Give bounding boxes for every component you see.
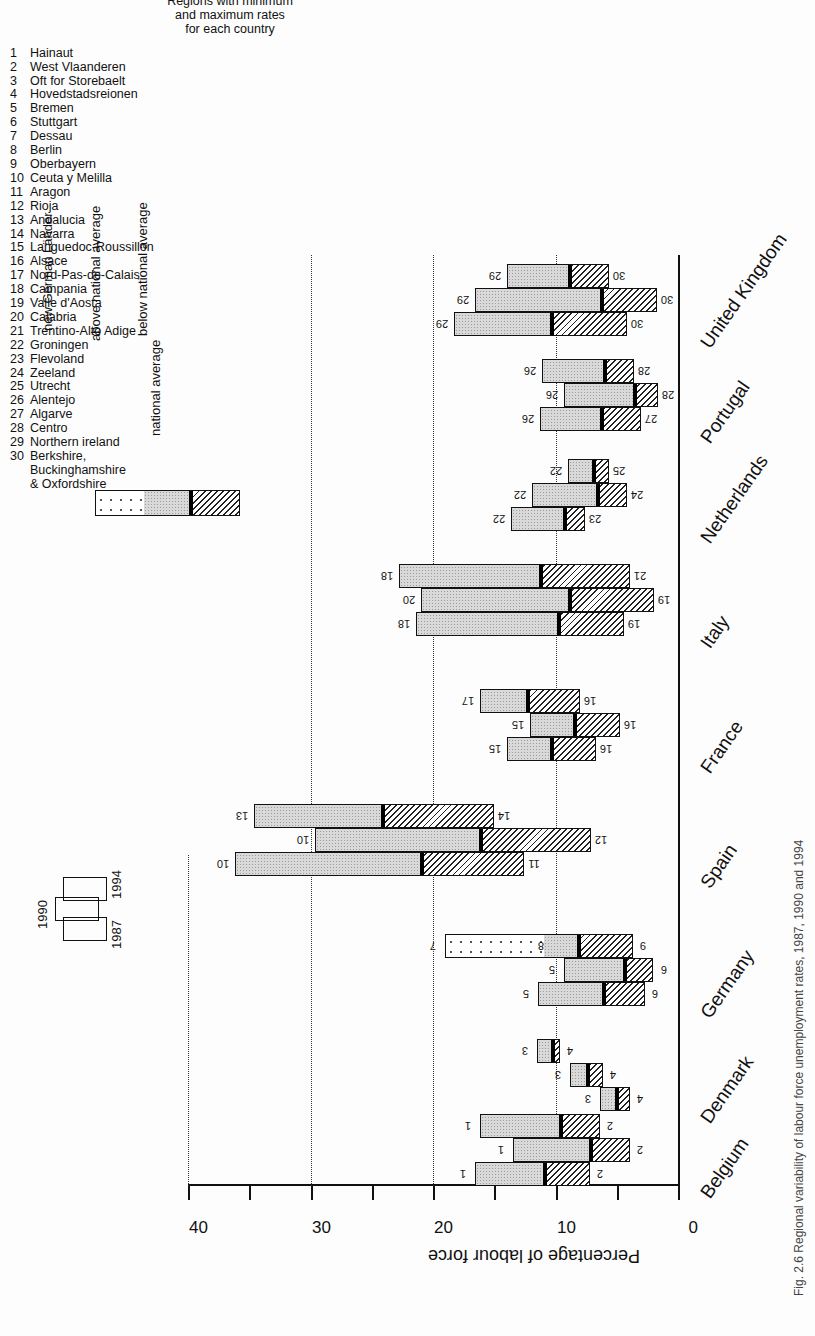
country-label: Italy bbox=[696, 611, 734, 652]
min-region-label: 6 bbox=[652, 964, 676, 976]
region-item: 23Flevoland bbox=[10, 353, 450, 367]
max-region-label: 3 bbox=[576, 1093, 600, 1105]
region-number: 6 bbox=[10, 116, 30, 130]
regions-legend: Regions with minimumand maximum ratesfor… bbox=[10, 0, 450, 492]
bar-belgium-1994 bbox=[480, 1114, 600, 1138]
region-name: Buckinghamshire bbox=[30, 463, 126, 477]
region-number: 1 bbox=[10, 47, 30, 61]
region-item: & Oxfordshire bbox=[10, 478, 450, 492]
national-average-marker bbox=[550, 738, 554, 760]
national-average-marker bbox=[550, 313, 554, 335]
national-average-marker bbox=[577, 935, 581, 957]
min-region-label: 12 bbox=[589, 834, 613, 846]
bar-spain-1994 bbox=[254, 804, 494, 828]
regions-title: Regions with minimumand maximum ratesfor… bbox=[10, 0, 450, 37]
region-item: Buckinghamshire bbox=[10, 464, 450, 478]
country-label: Netherlands bbox=[696, 451, 773, 548]
region-name: Dessau bbox=[30, 129, 72, 143]
year-key: 1987 1990 1994 bbox=[25, 841, 125, 941]
region-item: 16Alsace bbox=[10, 255, 450, 269]
y-tick bbox=[433, 1186, 435, 1200]
region-name: Aragon bbox=[30, 185, 70, 199]
regions-title-line: for each country bbox=[10, 23, 450, 37]
segment-below-average bbox=[545, 1163, 589, 1185]
region-name: West Vlaanderen bbox=[30, 60, 126, 74]
segment-above-average bbox=[316, 829, 480, 851]
max-region-label: 15 bbox=[506, 719, 530, 731]
max-region-label: 3 bbox=[546, 1069, 570, 1081]
min-region-label: 16 bbox=[578, 695, 602, 707]
region-name: Calabria bbox=[30, 310, 77, 324]
segment-above-average bbox=[508, 265, 570, 287]
bar-spain-1987 bbox=[235, 852, 524, 876]
max-region-label: 26 bbox=[540, 389, 564, 401]
bar-portugal-1987 bbox=[540, 407, 642, 431]
max-region-label: 26 bbox=[518, 365, 542, 377]
max-region-label: 17 bbox=[456, 695, 480, 707]
region-item: 30Berkshire, bbox=[10, 450, 450, 464]
min-region-label: 30 bbox=[625, 318, 649, 330]
national-average-marker bbox=[573, 714, 577, 736]
min-region-label: 25 bbox=[607, 465, 631, 477]
country-label: Denmark bbox=[696, 1052, 758, 1128]
region-item: 27Algarve bbox=[10, 408, 450, 422]
segment-below-average bbox=[635, 384, 659, 406]
segment-below-average bbox=[570, 589, 654, 611]
segment-below-average bbox=[591, 1139, 630, 1161]
max-region-label: 22 bbox=[487, 513, 511, 525]
region-number: 23 bbox=[10, 353, 30, 367]
region-name: Rioja bbox=[30, 199, 59, 213]
segment-above-average bbox=[455, 313, 552, 335]
segment-above-average bbox=[481, 690, 529, 712]
region-item: 8Berlin bbox=[10, 144, 450, 158]
region-name: Andalucia bbox=[30, 213, 85, 227]
segment-below-average bbox=[552, 738, 596, 760]
min-region-label: 19 bbox=[622, 618, 646, 630]
min-region-label: 21 bbox=[628, 570, 652, 582]
max-region-label: 18 bbox=[375, 570, 399, 582]
national-average-marker bbox=[596, 484, 600, 506]
gridline-40 bbox=[188, 855, 189, 1186]
min-region-label: 4 bbox=[558, 1045, 582, 1057]
segment-below-average bbox=[422, 853, 524, 875]
year-key-1987: 1987 bbox=[109, 920, 124, 949]
national-average-marker bbox=[592, 460, 596, 482]
segment-below-average bbox=[561, 1115, 599, 1137]
segment-below-average bbox=[602, 408, 641, 430]
region-number: 13 bbox=[10, 214, 30, 228]
y-tick-label: 30 bbox=[291, 1218, 331, 1238]
max-region-label: 5 bbox=[540, 964, 564, 976]
min-region-label: 11 bbox=[522, 858, 546, 870]
national-average-marker bbox=[526, 690, 530, 712]
region-number: 4 bbox=[10, 88, 30, 102]
region-item: 5Bremen bbox=[10, 102, 450, 116]
national-average-marker bbox=[479, 829, 483, 851]
region-name: Oft for Storebaelt bbox=[30, 74, 125, 88]
region-number: 24 bbox=[10, 367, 30, 381]
bar-germany-1987 bbox=[538, 982, 645, 1006]
max-region-label: 15 bbox=[483, 743, 507, 755]
national-average-marker bbox=[633, 384, 637, 406]
region-name: Berlin bbox=[30, 143, 62, 157]
min-region-label: 23 bbox=[583, 513, 607, 525]
western-max-region-label: 8 bbox=[529, 940, 553, 952]
bar-portugal-1990 bbox=[564, 383, 658, 407]
region-item: 26Alentejo bbox=[10, 394, 450, 408]
region-item: 11Aragon bbox=[10, 186, 450, 200]
national-average-marker bbox=[420, 853, 424, 875]
min-region-label: 2 bbox=[588, 1168, 612, 1180]
max-region-label: 22 bbox=[544, 465, 568, 477]
y-tick bbox=[556, 1186, 558, 1200]
region-name: Nord-Pas-de-Calais bbox=[30, 268, 140, 282]
max-region-label: 1 bbox=[456, 1120, 480, 1132]
y-tick-label: 0 bbox=[658, 1218, 698, 1238]
legend-swatch bbox=[95, 490, 240, 516]
segment-below-average bbox=[528, 690, 580, 712]
region-item: 22Groningen bbox=[10, 339, 450, 353]
year-key-1994: 1994 bbox=[109, 870, 124, 899]
region-number: 15 bbox=[10, 241, 30, 255]
region-number: 30 bbox=[10, 450, 30, 464]
segment-above-average bbox=[255, 805, 382, 827]
year-key-box-1994 bbox=[63, 877, 107, 901]
national-average-marker bbox=[559, 1115, 563, 1137]
